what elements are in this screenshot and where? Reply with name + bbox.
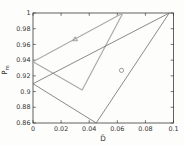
y-axis-label: Pm — [0, 65, 10, 75]
y-axis-label-subscript: m — [4, 65, 10, 70]
x-tick-label: 0.02 — [54, 125, 68, 133]
x-tick-label: 0.1 — [168, 125, 178, 133]
chart-canvas: 00.020.040.060.080.10.860.880.90.920.940… — [0, 0, 184, 145]
series-triangle-marked-region — [33, 13, 123, 90]
x-tick-label: 0 — [31, 125, 35, 133]
x-axis-label: D̄ — [100, 134, 106, 143]
y-tick-label: 0.96 — [16, 41, 30, 49]
y-tick-label: 0.94 — [16, 56, 30, 64]
plot-area: 00.020.040.060.080.10.860.880.90.920.940… — [16, 9, 178, 133]
figure-pm-vs-d-chart: 00.020.040.060.080.10.860.880.90.920.940… — [0, 0, 184, 145]
x-tick-label: 0.04 — [82, 125, 96, 133]
y-tick-label: 0.98 — [16, 25, 30, 33]
plot-box — [33, 13, 174, 123]
y-tick-label: 0.88 — [16, 103, 30, 111]
y-tick-label: 0.86 — [16, 119, 30, 127]
y-tick-label: 0.92 — [16, 72, 30, 80]
circle-marker-icon — [119, 68, 123, 72]
y-tick-label: 0.9 — [20, 88, 30, 96]
x-tick-label: 0.06 — [110, 125, 124, 133]
y-tick-label: 1 — [26, 9, 30, 17]
x-tick-label: 0.08 — [138, 125, 152, 133]
series-circle-marked-region — [33, 13, 169, 123]
